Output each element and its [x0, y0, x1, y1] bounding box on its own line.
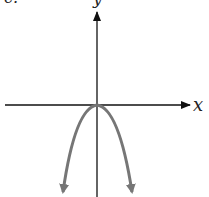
part-label: c.	[4, 0, 18, 7]
x-axis-label: x	[193, 94, 203, 115]
parabola-left-branch	[63, 105, 97, 192]
y-axis-label: y	[92, 0, 103, 8]
coordinate-graph: c. y x	[0, 0, 209, 197]
parabola-right-branch	[97, 105, 132, 192]
